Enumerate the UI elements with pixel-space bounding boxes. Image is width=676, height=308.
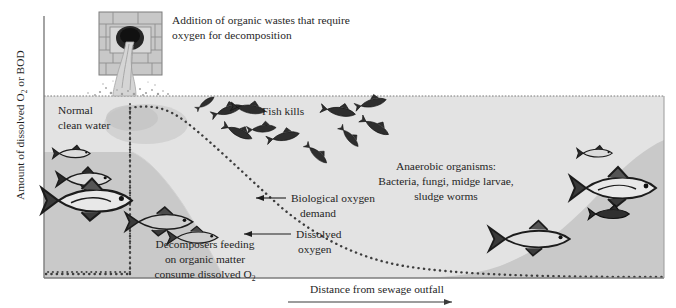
sewage-plume-shadow	[104, 104, 188, 144]
clean-water-line2: clean water	[58, 119, 110, 131]
outfall-caption-line1: Addition of organic wastes that require	[172, 14, 350, 26]
decomposers-line3-group: consume dissolved O2	[154, 268, 255, 283]
diagram-canvas: Amount of dissolved O2 or BOD Distance f…	[0, 0, 676, 308]
anaerobic-line3: sludge worms	[414, 190, 478, 202]
do-label-line1: Dissolved	[296, 228, 342, 240]
sewage-outfall-structure	[87, 12, 169, 96]
outfall-caption: Addition of organic wastes that require …	[172, 14, 350, 41]
svg-text:Amount of dissolved O2 or BOD: Amount of dissolved O2 or BOD	[14, 50, 29, 200]
anaerobic-line1: Anaerobic organisms:	[396, 160, 496, 172]
outfall-caption-line2: oxygen for decomposition	[172, 29, 292, 41]
y-axis-label: Amount of dissolved O2 or BOD	[14, 50, 29, 200]
plot-area	[44, 96, 664, 278]
x-axis-label: Distance from sewage outfall	[310, 283, 444, 295]
do-label-line2: oxygen	[298, 243, 332, 255]
decomposers-line1: Decomposers feeding	[155, 238, 254, 250]
decomposers-line3-subscript: 2	[252, 274, 256, 283]
y-axis-label-tail: or BOD	[14, 50, 26, 89]
oxygen-sag-diagram: Amount of dissolved O2 or BOD Distance f…	[0, 0, 676, 308]
bod-label-line2: demand	[300, 207, 336, 219]
decomposers-line3: consume dissolved O	[154, 268, 251, 280]
decomposers-label: Decomposers feeding on organic matter co…	[154, 238, 255, 283]
clean-water-line1: Normal	[58, 104, 93, 116]
x-axis-label-group: Distance from sewage outfall	[288, 283, 452, 305]
x-axis-arrow-head	[444, 299, 452, 305]
decomposers-line2: on organic matter	[165, 253, 245, 265]
fish-kills-label: Fish kills	[262, 105, 305, 117]
anaerobic-line2: Bacteria, fungi, midge larvae,	[378, 175, 514, 187]
y-axis-label-main: Amount of dissolved O	[14, 93, 26, 200]
bod-label-line1: Biological oxygen	[291, 192, 375, 204]
